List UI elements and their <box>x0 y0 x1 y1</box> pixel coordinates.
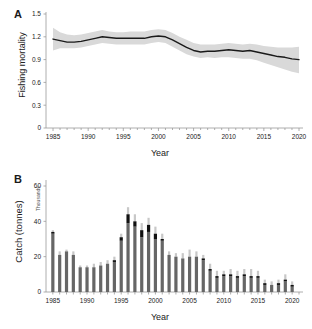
catch-bar <box>250 269 253 292</box>
catch-bar <box>113 257 116 292</box>
bar-dark-segment <box>209 269 212 271</box>
bar-body <box>65 251 68 292</box>
catch-bar <box>222 271 225 292</box>
error-bar <box>250 269 252 276</box>
bar-body <box>270 285 273 292</box>
error-bar <box>79 266 81 268</box>
confidence-ribbon <box>53 28 299 74</box>
tick-label: 0.9 <box>32 56 41 63</box>
bar-body <box>147 232 150 292</box>
bar-dark-segment <box>51 232 54 234</box>
error-bar <box>195 251 197 256</box>
panel-a-plot: 00.30.60.91.21.5198519901995200020052010… <box>0 0 312 165</box>
tick-label: 2010 <box>221 133 236 140</box>
bar-body <box>195 257 198 292</box>
error-bar <box>264 280 266 284</box>
bar-dark-segment <box>277 283 280 285</box>
bar-body <box>161 241 164 292</box>
tick-label: 1995 <box>116 133 131 140</box>
bar-body <box>126 223 129 292</box>
bar-body <box>85 267 88 292</box>
tick-label: 2020 <box>292 133 307 140</box>
error-bar <box>127 207 129 214</box>
bar-body <box>202 260 205 292</box>
error-bar <box>236 271 238 276</box>
bar-dark-segment <box>147 225 150 232</box>
tick-label: 1.5 <box>32 10 41 17</box>
catch-bar <box>174 253 177 292</box>
catch-bar <box>147 218 150 292</box>
tick-label: 60 <box>34 182 42 189</box>
bar-body <box>236 278 239 292</box>
catch-bar <box>188 250 191 292</box>
catch-bar <box>58 251 61 292</box>
bar-dark-segment <box>126 214 129 223</box>
catch-bar <box>154 227 157 292</box>
catch-bar <box>256 271 259 292</box>
catch-bar <box>79 266 82 293</box>
tick-label: 1985 <box>46 297 61 304</box>
bar-dark-segment <box>250 276 253 278</box>
catch-bar <box>284 274 287 292</box>
bar-body <box>291 287 294 292</box>
catch-bar <box>277 280 280 292</box>
bar-body <box>209 271 212 292</box>
error-bar <box>147 218 149 225</box>
catch-bar <box>209 264 212 292</box>
catch-bar <box>72 251 75 292</box>
error-bar <box>277 280 279 284</box>
tick-label: 0.3 <box>32 102 41 109</box>
error-bar <box>93 264 95 268</box>
bar-body <box>284 281 287 292</box>
bar-body <box>79 267 82 292</box>
error-bar <box>182 253 184 258</box>
bar-body <box>140 237 143 292</box>
tick-label: 0.6 <box>32 79 41 86</box>
tick-label: 2020 <box>285 297 300 304</box>
error-bar <box>188 250 190 257</box>
bar-body <box>263 285 266 292</box>
bar-body <box>250 278 253 292</box>
bar-body <box>72 255 75 292</box>
panel-b: B Catch (tonnes) Thousands Year 02040601… <box>0 164 312 329</box>
error-bar <box>113 257 115 261</box>
catch-bar <box>161 234 164 292</box>
catch-bar <box>51 230 54 292</box>
bar-dark-segment <box>284 280 287 282</box>
error-bar <box>86 266 88 268</box>
error-bar <box>65 250 67 252</box>
tick-label: 2005 <box>186 133 201 140</box>
bar-dark-segment <box>229 274 232 276</box>
catch-bar <box>202 255 205 292</box>
bar-body <box>106 264 109 292</box>
bar-body <box>243 276 246 292</box>
bar-dark-segment <box>222 274 225 276</box>
error-bar <box>134 214 136 221</box>
error-bar <box>161 234 163 239</box>
catch-bar <box>92 264 95 292</box>
catch-bar <box>120 234 123 292</box>
tick-label: 0 <box>37 124 41 131</box>
error-bar <box>52 230 54 232</box>
catch-bar <box>229 269 232 292</box>
error-bar <box>120 234 122 238</box>
bar-dark-segment <box>154 234 157 239</box>
tick-label: 1995 <box>114 297 129 304</box>
error-bar <box>291 281 293 285</box>
bar-body <box>174 257 177 292</box>
bar-dark-segment <box>215 276 218 278</box>
catch-bar <box>65 250 68 292</box>
tick-label: 2005 <box>182 297 197 304</box>
bar-body <box>215 278 218 292</box>
error-bar <box>154 227 156 234</box>
bar-dark-segment <box>236 276 239 278</box>
bar-body <box>277 285 280 292</box>
error-bar <box>168 251 170 255</box>
panel-a: A Fishing mortality Year 00.30.60.91.21.… <box>0 0 312 165</box>
error-bar <box>100 262 102 266</box>
error-bar <box>59 251 61 255</box>
error-bar <box>243 269 245 274</box>
bar-dark-segment <box>263 283 266 285</box>
bar-body <box>229 276 232 292</box>
catch-bar <box>236 271 239 292</box>
